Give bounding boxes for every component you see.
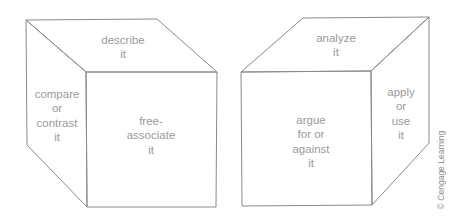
label-line: free- (127, 114, 176, 128)
label-line: it (292, 156, 329, 170)
label-line: analyze (316, 31, 356, 45)
label-line: or (387, 99, 415, 113)
label-line: use (387, 114, 415, 128)
label-line: apply (387, 85, 415, 99)
right-cube-top-label: analyze it (316, 31, 356, 60)
cubing-diagram: describe it compare or contrast it free-… (0, 0, 467, 223)
label-line: against (292, 142, 329, 156)
label-line: it (316, 45, 356, 59)
left-cube-front-label: free- associate it (127, 114, 176, 157)
right-cube-front-label: argue for or against it (292, 113, 329, 170)
left-cube-side-label: compare or contrast it (35, 87, 80, 144)
label-line: compare (35, 87, 80, 101)
label-line: contrast (35, 116, 80, 130)
copyright-notice: © Cengage Learning (436, 131, 446, 210)
left-cube-top-label: describe it (101, 33, 144, 62)
label-line: it (101, 47, 144, 61)
label-line: argue (292, 113, 329, 127)
label-line: it (35, 130, 80, 144)
right-cube-side-label: apply or use it (387, 85, 415, 142)
label-line: associate (127, 128, 176, 142)
label-line: describe (101, 33, 144, 47)
label-line: it (127, 143, 176, 157)
label-line: it (387, 128, 415, 142)
label-line: or (35, 101, 80, 115)
label-line: for or (292, 127, 329, 141)
